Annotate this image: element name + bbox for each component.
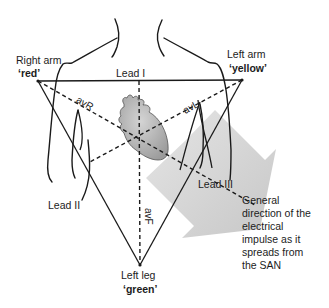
- caption-line: General: [242, 194, 329, 207]
- caption-line: impulse as it: [242, 233, 329, 246]
- lead-iii-label: Lead III: [198, 178, 233, 190]
- heart-icon: [119, 95, 168, 160]
- einthoven-diagram: Right arm ‘red’ Left arm ‘yellow’ Left l…: [0, 0, 329, 308]
- lead-ii-curve: [78, 110, 82, 150]
- right-arm-electrode: [36, 79, 39, 82]
- lead-i-line: [38, 80, 242, 81]
- right-arm-label: Right arm: [16, 54, 62, 66]
- left-leg-label: Left leg: [121, 269, 155, 281]
- lead-ii-label: Lead II: [48, 199, 80, 211]
- lead-i-label: Lead I: [116, 67, 145, 79]
- avf-label: avF: [143, 208, 154, 225]
- caption-line: spreads from: [242, 246, 329, 259]
- left-arm-label: Left arm: [227, 48, 266, 60]
- left-leg-electrode: [138, 263, 141, 266]
- caption-line: electrical: [242, 220, 329, 233]
- caption-line: direction of the: [242, 207, 329, 220]
- right-arm-color: ‘red’: [18, 67, 40, 79]
- caption-line: the SAN: [242, 259, 329, 272]
- arrow-caption: General direction of the electrical impu…: [242, 194, 329, 272]
- left-arm-electrode: [240, 78, 243, 81]
- left-arm-color: ‘yellow’: [229, 62, 267, 74]
- left-leg-color: ‘green’: [123, 283, 157, 295]
